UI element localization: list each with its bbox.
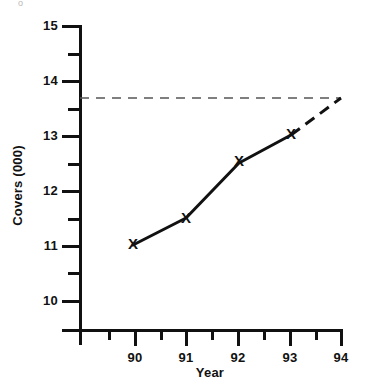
data-series-line xyxy=(133,135,291,245)
chart-figure: o 15 14 13 12 11 10 90 xyxy=(0,0,370,391)
data-point-marker: X xyxy=(232,153,246,168)
data-point-marker: X xyxy=(179,210,193,225)
projection-line xyxy=(291,98,341,135)
plot-area xyxy=(0,0,370,391)
data-point-marker: X xyxy=(284,126,298,141)
data-point-marker: X xyxy=(126,236,140,251)
